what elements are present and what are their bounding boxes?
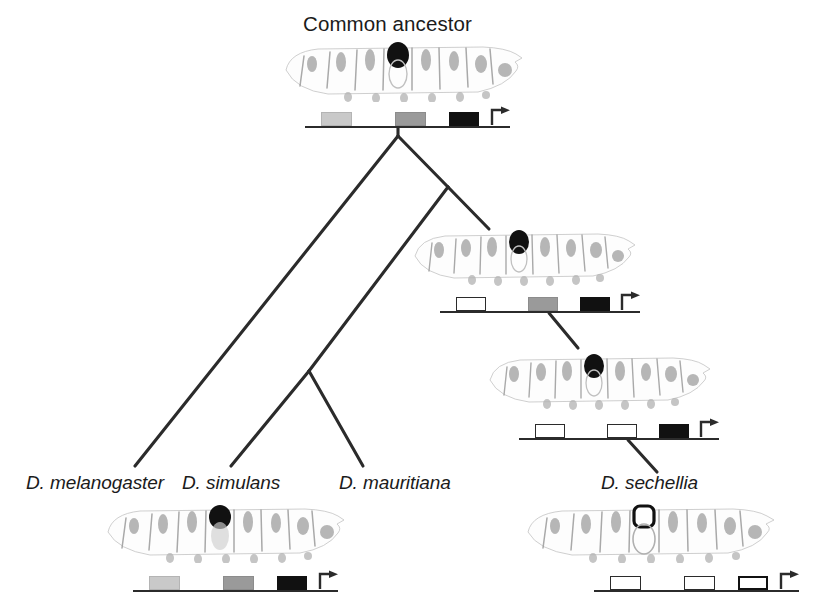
enhancer-box-2 [395, 112, 426, 126]
branch-node3-to-simulans [231, 371, 309, 466]
larva-specimen-sechellia [520, 503, 780, 563]
branch-node2-to-specimen [448, 187, 489, 229]
locus-axis [133, 590, 338, 593]
enhancer-box-1 [610, 576, 641, 590]
locus-axis [440, 311, 640, 314]
locus-axis [519, 438, 719, 441]
transcription-start-arrow-icon [779, 570, 801, 590]
enhancer-box-3 [738, 576, 769, 590]
enhancer-box-3 [659, 424, 689, 438]
species-label-mauritiana: D. mauritiana [339, 472, 451, 494]
regulatory-locus-sechellia [594, 572, 799, 592]
enhancer-box-2 [528, 297, 558, 311]
enhancer-box-2 [223, 576, 254, 590]
transcription-start-arrow-icon [620, 291, 642, 311]
enhancer-box-1 [456, 297, 486, 311]
transcription-start-arrow-icon [490, 106, 512, 126]
figure-canvas: Common ancestor D. melanogaster D. simul… [0, 0, 831, 615]
branch-node3-to-mauritiana [309, 371, 363, 466]
pigment-spot [387, 42, 409, 68]
larva-specimen-node3 [483, 352, 715, 410]
connector-node2-to-node3-specimen [549, 313, 578, 348]
enhancer-box-1 [535, 424, 565, 438]
transcription-start-arrow-icon [318, 570, 340, 590]
regulatory-locus-melanogaster [133, 572, 338, 592]
connector-node3-to-sechellia [628, 440, 657, 472]
locus-axis [594, 590, 799, 593]
branch-root-to-melanogaster [135, 136, 398, 466]
larva-specimen-ancestor [278, 40, 528, 102]
species-label-simulans: D. simulans [182, 472, 280, 494]
species-label-sechellia: D. sechellia [601, 472, 698, 494]
regulatory-locus-ancestor [305, 108, 510, 128]
pigment-spot [584, 354, 604, 378]
enhancer-box-1 [149, 576, 180, 590]
regulatory-locus-node2 [440, 293, 640, 313]
enhancer-box-3 [277, 576, 308, 590]
species-label-melanogaster: D. melanogaster [26, 472, 164, 494]
enhancer-box-2 [684, 576, 715, 590]
regulatory-locus-node3 [519, 420, 719, 440]
locus-axis [305, 126, 510, 129]
enhancer-box-3 [580, 297, 610, 311]
larva-specimen-node2 [408, 228, 640, 286]
larva-specimen-melanogaster [100, 503, 350, 563]
page-title: Common ancestor [303, 12, 472, 36]
pigment-spot [509, 230, 529, 254]
enhancer-box-2 [607, 424, 637, 438]
branch-root-to-node2 [398, 136, 448, 187]
transcription-start-arrow-icon [699, 418, 721, 438]
enhancer-box-1 [321, 112, 352, 126]
enhancer-box-3 [449, 112, 480, 126]
